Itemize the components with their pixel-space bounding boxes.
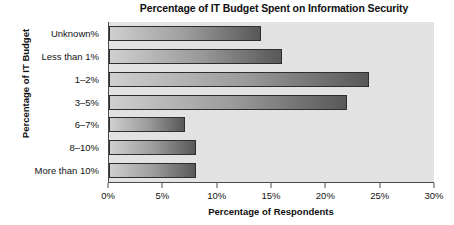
x-axis-tick-label: 0% (101, 190, 115, 201)
x-axis-ticks (108, 183, 434, 188)
bar (109, 163, 196, 178)
bar (109, 49, 282, 64)
x-axis-tick-label: 30% (424, 190, 443, 201)
x-axis-tick (379, 183, 380, 188)
bar-slot (109, 45, 434, 68)
x-axis-tick-labels: 0%5%10%15%20%25%30% (108, 190, 434, 203)
bar-slot (109, 136, 434, 159)
bar-slot (109, 22, 434, 45)
y-axis-tick-label: Less than 1% (18, 45, 104, 68)
plot-area (108, 22, 434, 182)
x-axis-tick (162, 183, 163, 188)
bar (109, 140, 196, 155)
y-axis-tick-labels: Unknown% Less than 1% 1–2% 3–5% 6–7% 8–1… (18, 22, 104, 182)
bar-slot (109, 113, 434, 136)
x-axis-tick (108, 183, 109, 188)
bar-slot (109, 159, 434, 182)
bar-slot (109, 91, 434, 114)
bars-layer (109, 22, 434, 182)
y-axis-tick-label: 1–2% (18, 68, 104, 91)
x-axis-tick (434, 183, 435, 188)
y-axis-tick-label: Unknown% (18, 22, 104, 45)
x-axis-tick-label: 20% (316, 190, 335, 201)
bar (109, 26, 261, 41)
x-axis-title: Percentage of Respondents (108, 206, 434, 217)
x-axis-tick (325, 183, 326, 188)
bar (109, 72, 369, 87)
x-axis-tick-label: 10% (207, 190, 226, 201)
y-axis-tick-label: 8–10% (18, 136, 104, 159)
x-axis-tick-label: 25% (370, 190, 389, 201)
x-axis-tick (216, 183, 217, 188)
bar (109, 95, 347, 110)
chart-title: Percentage of IT Budget Spent on Informa… (100, 2, 448, 14)
x-axis-tick (271, 183, 272, 188)
y-axis-tick-label: 3–5% (18, 91, 104, 114)
bar-chart-figure: Percentage of IT Budget Spent on Informa… (0, 0, 454, 225)
bar (109, 117, 185, 132)
x-axis-tick-label: 5% (155, 190, 169, 201)
bar-slot (109, 68, 434, 91)
y-axis-tick-label: More than 10% (18, 159, 104, 182)
y-axis-tick-label: 6–7% (18, 113, 104, 136)
x-axis-tick-label: 15% (261, 190, 280, 201)
